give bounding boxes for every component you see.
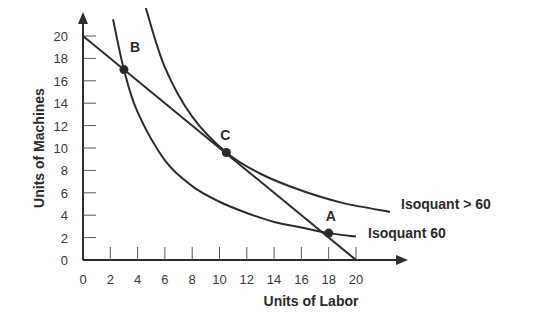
points-group: BCA xyxy=(119,39,335,238)
curve-labels: Isoquant 60Isoquant > 60 xyxy=(368,196,491,241)
y-tick-label: 12 xyxy=(54,119,68,134)
point-a-label: A xyxy=(326,208,336,224)
isoquant-60-label: Isoquant 60 xyxy=(368,225,446,241)
point-b-marker xyxy=(119,65,128,74)
x-tick-label: 16 xyxy=(294,272,308,287)
y-tick-label: 14 xyxy=(54,96,68,111)
x-tick-label: 20 xyxy=(349,272,363,287)
x-axis-arrow-icon xyxy=(396,255,408,265)
y-tick-label: 10 xyxy=(54,141,68,156)
isoquant-chart: 02468101214161820 02468101214161820 BCA … xyxy=(0,0,537,334)
point-c-label: C xyxy=(220,127,230,143)
x-tick-label: 6 xyxy=(161,272,168,287)
x-tick-label: 12 xyxy=(240,272,254,287)
isoquant-60-line xyxy=(113,19,356,236)
y-tick-label: 8 xyxy=(61,163,68,178)
y-tick-label: 20 xyxy=(54,29,68,44)
x-tick-label: 2 xyxy=(107,272,114,287)
x-tick-label: 0 xyxy=(79,272,86,287)
x-axis-title: Units of Labor xyxy=(264,293,359,309)
point-c-marker xyxy=(222,148,231,157)
x-tick-label: 10 xyxy=(212,272,226,287)
y-axis-ticks: 02468101214161820 xyxy=(54,29,96,268)
y-tick-label: 4 xyxy=(61,208,68,223)
isoquant-60-line xyxy=(146,8,390,212)
isoquant-60-label: Isoquant > 60 xyxy=(401,196,491,212)
y-tick-label: 18 xyxy=(54,51,68,66)
x-tick-label: 18 xyxy=(321,272,335,287)
axes xyxy=(78,12,408,265)
y-tick-label: 6 xyxy=(61,186,68,201)
y-tick-label: 16 xyxy=(54,74,68,89)
x-tick-label: 8 xyxy=(189,272,196,287)
y-axis-arrow-icon xyxy=(78,12,88,24)
y-tick-label: 0 xyxy=(61,253,68,268)
y-tick-label: 2 xyxy=(61,231,68,246)
y-axis-title: Units of Machines xyxy=(31,88,47,208)
x-tick-label: 14 xyxy=(267,272,281,287)
x-tick-label: 4 xyxy=(134,272,141,287)
point-a-marker xyxy=(324,229,333,238)
x-axis-ticks: 02468101214161820 xyxy=(79,247,363,287)
point-b-label: B xyxy=(130,39,140,55)
